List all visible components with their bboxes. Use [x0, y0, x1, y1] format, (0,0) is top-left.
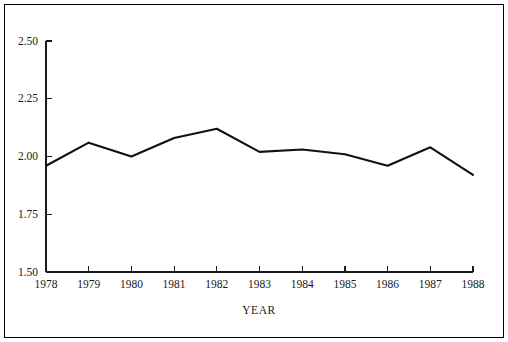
x-tick-label: 1985	[333, 278, 356, 290]
y-tick-label: 2.00	[18, 150, 38, 162]
x-tick-label: 1984	[291, 278, 314, 290]
x-tick-label: 1979	[77, 278, 100, 290]
x-tick-label: 1986	[376, 278, 399, 290]
y-axis: 1.501.752.002.252.50	[18, 35, 52, 278]
x-tick-label: 1982	[205, 278, 228, 290]
x-tick-label: 1988	[462, 278, 485, 290]
x-tick-label: 1983	[248, 278, 271, 290]
x-tick-label: 1981	[163, 278, 186, 290]
y-tick-label: 2.25	[18, 92, 38, 104]
y-tick-label: 1.50	[18, 266, 38, 278]
y-tick-marks	[46, 41, 52, 272]
x-tick-label: 1987	[419, 278, 442, 290]
x-tick-labels: 1978197919801981198219831984198519861987…	[35, 278, 485, 290]
x-tick-label: 1978	[35, 278, 58, 290]
line-chart-canvas: 1.501.752.002.252.50 1978197919801981198…	[0, 0, 508, 342]
x-axis-title: YEAR	[242, 304, 276, 316]
data-series-line	[46, 129, 473, 175]
chart-figure: 1.501.752.002.252.50 1978197919801981198…	[0, 0, 508, 342]
y-tick-labels: 1.501.752.002.252.50	[18, 35, 38, 278]
x-axis: 1978197919801981198219831984198519861987…	[35, 266, 485, 290]
x-tick-marks	[46, 266, 473, 272]
x-tick-label: 1980	[120, 278, 143, 290]
y-tick-label: 1.75	[18, 208, 38, 220]
y-tick-label: 2.50	[18, 35, 38, 47]
